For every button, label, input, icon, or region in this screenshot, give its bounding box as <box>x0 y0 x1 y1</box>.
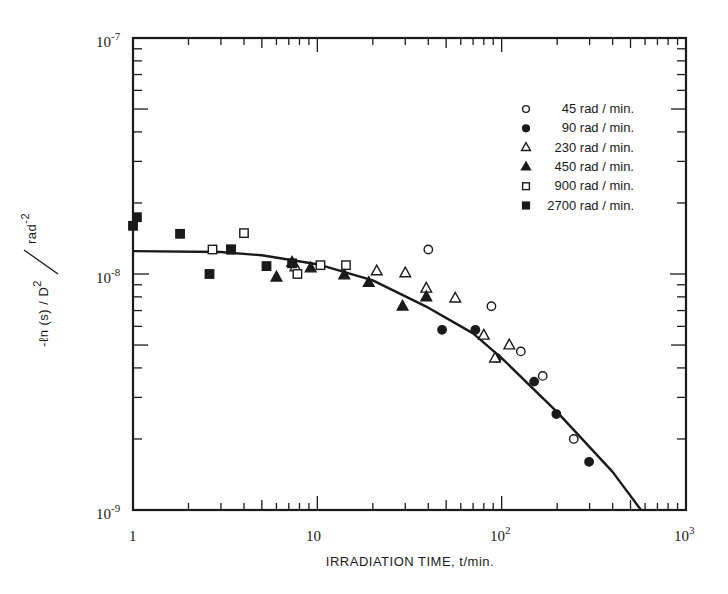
data-point <box>227 245 235 253</box>
data-point <box>129 222 137 230</box>
data-point <box>240 229 248 237</box>
x-tick-label-1: 1 <box>129 528 137 544</box>
data-point <box>400 267 411 277</box>
data-point <box>133 213 141 221</box>
data-point <box>539 372 547 380</box>
legend-label: 450 rad / min. <box>555 159 635 174</box>
data-point <box>397 300 408 310</box>
data-point <box>371 265 382 275</box>
data-point <box>471 326 479 334</box>
data-point <box>487 302 495 310</box>
open-circle-icon <box>523 106 530 113</box>
data-point <box>208 245 216 253</box>
x-tick-label-10: 10 <box>306 528 321 544</box>
data-point <box>176 230 184 238</box>
data-point <box>585 458 593 466</box>
legend-label: 90 rad / min. <box>562 120 634 135</box>
data-point <box>316 261 324 269</box>
filled-square-icon <box>523 202 530 209</box>
data-point <box>517 347 525 355</box>
legend-label: 45 rad / min. <box>562 101 634 116</box>
open-square-icon <box>523 183 530 190</box>
data-point <box>342 261 350 269</box>
legend-label: 900 rad / min. <box>555 178 635 193</box>
svg-text:-ℓn (s) / D2: -ℓn (s) / D2 <box>31 280 51 347</box>
data-point <box>570 435 578 443</box>
open-triangle-icon <box>522 143 531 151</box>
chart: 10-7 10-8 10-9 1 10 102 103 IRRADIATION … <box>0 0 728 594</box>
y-axis-title: -ℓn (s) / D2 rad-2 <box>19 213 58 347</box>
x-tick-label-100: 102 <box>490 524 511 544</box>
data-point <box>271 271 282 281</box>
data-point <box>293 270 301 278</box>
y-tick-label-1e-8: 10-8 <box>96 266 121 286</box>
data-point <box>262 262 270 270</box>
svg-text:rad-2: rad-2 <box>19 213 39 244</box>
y-tick-label-1e-9: 10-9 <box>96 502 121 522</box>
legend-label: 2700 rad / min. <box>547 198 634 213</box>
data-point <box>424 245 432 253</box>
y-tick-label-1e-7: 10-7 <box>96 30 121 50</box>
data-point <box>288 259 296 267</box>
x-tick-label-1000: 103 <box>674 524 695 544</box>
data-point <box>438 326 446 334</box>
legend-label: 230 rad / min. <box>555 140 635 155</box>
x-axis-title: IRRADIATION TIME, t/min. <box>326 554 494 569</box>
data-point <box>504 339 515 349</box>
filled-triangle-icon <box>522 162 531 170</box>
fit-curve <box>133 251 641 510</box>
legend: 45 rad / min.90 rad / min.230 rad / min.… <box>522 101 634 213</box>
data-point <box>205 270 213 278</box>
data-point <box>530 377 538 385</box>
filled-circle-icon <box>523 125 530 132</box>
data-point <box>552 410 560 418</box>
data-point <box>450 292 461 302</box>
